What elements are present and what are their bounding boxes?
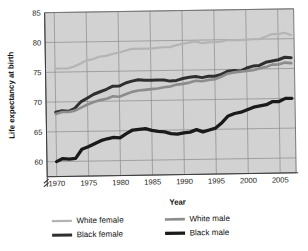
x-tick-label: 2005: [272, 175, 289, 184]
x-tick-label: 1990: [176, 177, 193, 186]
legend-item: White male: [165, 214, 231, 224]
x-axis-title: Year: [169, 198, 186, 207]
y-tick-label: 60: [34, 158, 43, 167]
legend-label: White female: [76, 215, 124, 225]
x-tick-label: 2000: [240, 176, 257, 185]
legend-label: Black male: [190, 228, 230, 238]
y-tick-label: 65: [34, 128, 43, 137]
y-tick-label: 85: [32, 9, 41, 18]
x-tick-label: 1980: [112, 178, 129, 187]
y-tick-label: 80: [33, 38, 42, 47]
legend-item: Black male: [165, 228, 230, 238]
legend-item: Black female: [52, 229, 123, 239]
x-tick-label: 1985: [144, 177, 161, 186]
x-tick-labels: 19701975198019851990199520002005: [48, 175, 288, 188]
y-axis-title: Life expectancy at birth: [6, 51, 16, 138]
legend-item: White female: [52, 215, 124, 225]
y-tick-label: 70: [34, 98, 43, 107]
y-tick-label: 75: [33, 68, 42, 77]
y-tick-labels: 606570758085: [32, 9, 43, 167]
x-tick-label: 1970: [48, 179, 65, 188]
legend-label: Black female: [77, 229, 124, 239]
chart-legend: White femaleWhite maleBlack femaleBlack …: [52, 214, 231, 240]
life-expectancy-line-chart: 606570758085 197019751980198519901995200…: [0, 0, 308, 251]
legend-label: White male: [189, 214, 230, 224]
x-tick-label: 1995: [208, 176, 225, 185]
x-tick-label: 1975: [80, 178, 97, 187]
